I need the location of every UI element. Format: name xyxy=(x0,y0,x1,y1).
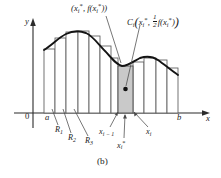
rectangle-10 xyxy=(144,58,156,113)
figure-caption: (b) xyxy=(97,157,108,166)
partition-label-x-prev: xi − 1 xyxy=(99,128,114,138)
rectangle-9 xyxy=(133,62,144,113)
rectangle-5 xyxy=(89,36,100,113)
ci-separator: , xyxy=(148,17,152,27)
x-prev-subscript: i − 1 xyxy=(103,131,115,137)
partition-label-x-i: xi xyxy=(146,128,151,138)
riemann-rectangles xyxy=(44,31,178,113)
centroid-dot xyxy=(123,87,128,92)
figure-canvas xyxy=(0,0,221,178)
rectangle-2 xyxy=(55,38,66,113)
y-axis xyxy=(30,18,36,128)
label-sample-point: (xi*, f(xi*)) xyxy=(71,3,107,14)
leader-x-star xyxy=(124,115,125,138)
ci-fraction-denominator: 2 xyxy=(153,21,158,29)
region-label-r1: R1 xyxy=(55,126,63,136)
lower-limit-label-a: a xyxy=(45,113,49,122)
r1-subscript: 1 xyxy=(60,129,63,135)
r2-subscript: 2 xyxy=(73,137,76,143)
figure-riemann-midpoint-sum: (xi*, f(xi*)) Ci(xi*, 12f(xi*)) y x 0 a … xyxy=(0,0,221,178)
point-paren-close: ) xyxy=(104,3,107,13)
origin-label: 0 xyxy=(25,112,29,121)
ci-paren-close: ) xyxy=(175,15,179,29)
ci-fraction-numerator: 1 xyxy=(153,14,158,21)
rectangle-4 xyxy=(78,31,89,113)
upper-limit-label-b: b xyxy=(177,113,181,122)
rectangle-7 xyxy=(111,58,118,113)
x-i-subscript: i xyxy=(150,131,152,137)
y-axis-label: y xyxy=(25,17,29,26)
rectangle-11 xyxy=(156,60,167,113)
rectangle-1 xyxy=(44,49,55,113)
region-label-r2: R2 xyxy=(68,134,76,144)
partition-label-x-star: xi* xyxy=(117,140,126,151)
ci-fraction-one-half: 12 xyxy=(153,14,158,29)
r3-subscript: 3 xyxy=(90,140,93,146)
label-centroid-ci: Ci(xi*, 12f(xi*)) xyxy=(127,14,179,29)
region-label-r3: R3 xyxy=(85,137,93,147)
x-axis-label: x xyxy=(206,114,210,123)
x-star-mark: * xyxy=(122,139,125,146)
rectangle-3 xyxy=(66,32,78,113)
